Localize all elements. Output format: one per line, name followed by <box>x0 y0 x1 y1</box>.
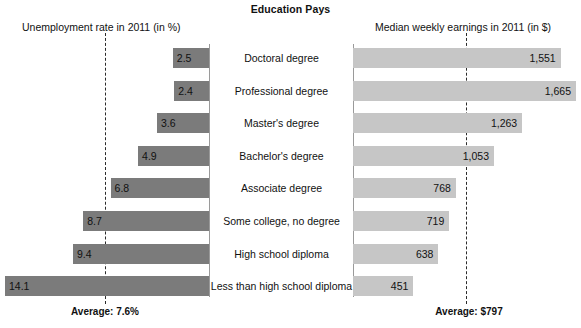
chart-row: 9.4High school diploma638 <box>0 244 581 264</box>
education-level-label: Associate degree <box>210 178 353 198</box>
unemployment-bar-value: 4.9 <box>142 146 157 166</box>
left-average-label: Average: 7.6% <box>71 306 139 317</box>
education-level-label: Doctoral degree <box>210 48 353 68</box>
left-axis-subtitle: Unemployment rate in 2011 (in %) <box>22 21 181 33</box>
earnings-bar-value: 719 <box>427 211 445 231</box>
right-axis-subtitle: Median weekly earnings in 2011 (in $) <box>375 21 551 33</box>
chart-title: Education Pays <box>0 3 581 15</box>
education-level-label: Bachelor's degree <box>210 146 353 166</box>
unemployment-bar-value: 9.4 <box>77 244 92 264</box>
chart-row: 3.6Master's degree1,263 <box>0 113 581 133</box>
right-average-label: Average: $797 <box>435 306 502 317</box>
education-level-label: Master's degree <box>210 113 353 133</box>
chart-row: 6.8Associate degree768 <box>0 178 581 198</box>
unemployment-bar: 3.6 <box>157 113 209 133</box>
chart-row: 4.9Bachelor's degree1,053 <box>0 146 581 166</box>
earnings-bar: 1,551 <box>353 48 561 68</box>
chart-row: 2.4Professional degree1,665 <box>0 81 581 101</box>
unemployment-bar: 4.9 <box>138 146 209 166</box>
unemployment-bar: 2.4 <box>174 81 209 101</box>
earnings-bar-value: 1,551 <box>529 48 555 68</box>
chart-row: 14.1Less than high school diploma451 <box>0 276 581 296</box>
education-level-label: Some college, no degree <box>210 211 353 231</box>
unemployment-bar: 9.4 <box>73 244 209 264</box>
earnings-bar: 1,665 <box>353 81 576 101</box>
unemployment-bar-value: 8.7 <box>87 211 102 231</box>
earnings-bar: 1,053 <box>353 146 494 166</box>
earnings-bar-value: 768 <box>433 178 451 198</box>
unemployment-bar-value: 6.8 <box>115 178 130 198</box>
unemployment-bar-value: 3.6 <box>161 113 176 133</box>
earnings-bar-value: 638 <box>416 244 434 264</box>
education-level-label: High school diploma <box>210 244 353 264</box>
earnings-bar-value: 1,665 <box>545 81 571 101</box>
education-level-label: Less than high school diploma <box>210 276 353 296</box>
unemployment-bar: 2.5 <box>173 48 209 68</box>
education-level-label: Professional degree <box>210 81 353 101</box>
earnings-bar-value: 1,263 <box>491 113 517 133</box>
earnings-bar-value: 451 <box>391 276 409 296</box>
earnings-bar-value: 1,053 <box>463 146 489 166</box>
earnings-bar: 638 <box>353 244 438 264</box>
earnings-bar: 1,263 <box>353 113 522 133</box>
unemployment-bar-value: 14.1 <box>9 276 29 296</box>
unemployment-bar: 14.1 <box>5 276 209 296</box>
education-pays-chart: Education Pays Unemployment rate in 2011… <box>0 0 581 328</box>
unemployment-bar-value: 2.4 <box>178 81 193 101</box>
unemployment-bar: 6.8 <box>111 178 209 198</box>
chart-row: 8.7Some college, no degree719 <box>0 211 581 231</box>
unemployment-bar: 8.7 <box>83 211 209 231</box>
earnings-bar: 719 <box>353 211 449 231</box>
earnings-bar: 768 <box>353 178 456 198</box>
unemployment-bar-value: 2.5 <box>177 48 192 68</box>
chart-row: 2.5Doctoral degree1,551 <box>0 48 581 68</box>
earnings-bar: 451 <box>353 276 413 296</box>
